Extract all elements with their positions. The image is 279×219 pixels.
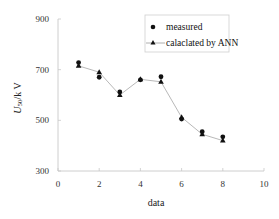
chart: 300500700900 0246810 data U50/k V measur…: [0, 0, 279, 219]
y-tick-label: 500: [36, 115, 50, 125]
y-tick-label: 700: [36, 65, 50, 75]
x-tick-label: 10: [260, 179, 270, 189]
y-tick-label: 900: [36, 14, 50, 24]
x-tick-label: 2: [97, 179, 102, 189]
y-tick-label: 300: [36, 166, 50, 176]
x-axis-title: data: [148, 197, 165, 208]
x-tick-label: 4: [138, 179, 143, 189]
triangle-marker-icon: [179, 114, 185, 119]
y-axis-title: U50/k V: [12, 81, 24, 113]
legend-label-ann: calaclated by ANN: [166, 38, 238, 48]
y-axis-title-unit: /k V: [12, 81, 23, 99]
data-markers: [76, 60, 226, 142]
svg-text:U50/k V: U50/k V: [12, 81, 24, 113]
circle-marker-icon: [97, 75, 102, 80]
legend-circle-icon: [151, 25, 156, 30]
x-tick-label: 8: [221, 179, 226, 189]
legend-label-measured: measured: [166, 22, 203, 32]
y-axis-ticks: 300500700900: [36, 14, 62, 176]
x-tick-label: 6: [179, 179, 184, 189]
x-tick-label: 0: [56, 179, 61, 189]
legend: measured calaclated by ANN: [145, 15, 238, 52]
circle-marker-icon: [159, 74, 164, 79]
